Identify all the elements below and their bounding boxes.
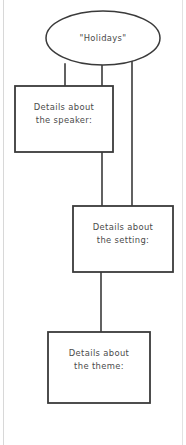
- theme-box-outline: [48, 332, 150, 403]
- holidays-ellipse-node: [46, 11, 160, 65]
- speaker-box-outline: [15, 86, 113, 152]
- worksheet-canvas: "Holidays" Details about the speaker: De…: [0, 0, 186, 445]
- setting-box-outline: [73, 206, 173, 272]
- graphic-organizer-diagram: [0, 0, 186, 445]
